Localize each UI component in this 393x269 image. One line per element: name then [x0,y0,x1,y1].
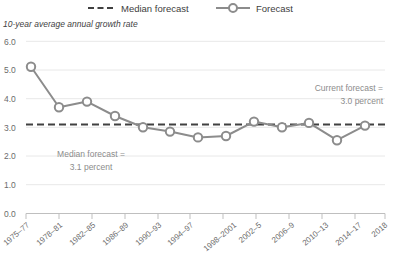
x-tick-label-11: 2018 [370,220,390,239]
annotation-current-line1: Current forecast = [315,83,383,93]
forecast-line [31,67,365,141]
x-axis [26,214,385,220]
x-tick-label-9: 2010–13 [301,220,331,247]
annotation-current-forecast: Current forecast = 3.0 percent [315,83,384,106]
annotation-current-line2: 3.0 percent [340,96,383,106]
legend-label-median: Median forecast [121,3,189,14]
x-tick-label-1: 1978–81 [35,220,65,247]
y-tick-label-3: 3.0 [4,123,16,133]
x-tick-label-0: 1975–77 [2,220,32,247]
y-axis-ticks: 6.0 5.0 4.0 3.0 2.0 1.0 0.0 [4,37,16,219]
data-point-marker [83,97,91,105]
y-tick-label-5: 5.0 [4,65,16,75]
data-point-marker [305,119,313,127]
data-point-marker [55,103,63,111]
legend-forecast-marker-icon [229,4,237,12]
data-point-marker [166,127,174,135]
legend-label-forecast: Forecast [256,3,293,14]
chart-subtitle: 10-year average annual growth rate [3,19,138,29]
x-tick-label-7: 2002–5 [237,220,264,244]
annotation-median-line1: Median forecast = [57,149,125,159]
data-point-marker [361,121,369,129]
data-point-marker [27,62,35,70]
x-tick-label-5: 1994–97 [166,220,196,247]
data-point-marker [194,133,202,141]
data-point-marker [111,112,119,120]
y-tick-label-0: 0.0 [4,209,16,219]
y-tick-label-4: 4.0 [4,94,16,104]
x-axis-tick-labels: 1975–77 1978–81 1982–85 1986–89 1990–93 … [2,220,390,253]
data-point-marker [222,132,230,140]
y-tick-label-2: 2.0 [4,151,16,161]
data-point-marker [139,123,147,131]
x-tick-label-8: 2006–9 [270,220,297,244]
data-point-marker [250,117,258,125]
x-tick-label-4: 1990–93 [134,220,164,247]
growth-rate-forecast-chart: Median forecast Forecast 10-year average… [0,0,393,269]
data-point-marker [333,136,341,144]
chart-legend: Median forecast Forecast [88,3,293,14]
annotation-median-line2: 3.1 percent [70,162,113,172]
data-point-marker [278,123,286,131]
forecast-series [27,62,369,144]
y-tick-label-6: 6.0 [4,37,16,47]
x-tick-label-6: 1998–2001 [202,220,239,253]
x-tick-label-2: 1982–85 [68,220,98,247]
y-tick-label-1: 1.0 [4,180,16,190]
annotation-median-forecast: Median forecast = 3.1 percent [57,149,125,172]
x-tick-label-3: 1986–89 [101,220,131,247]
x-tick-label-10: 2014–17 [334,220,364,247]
